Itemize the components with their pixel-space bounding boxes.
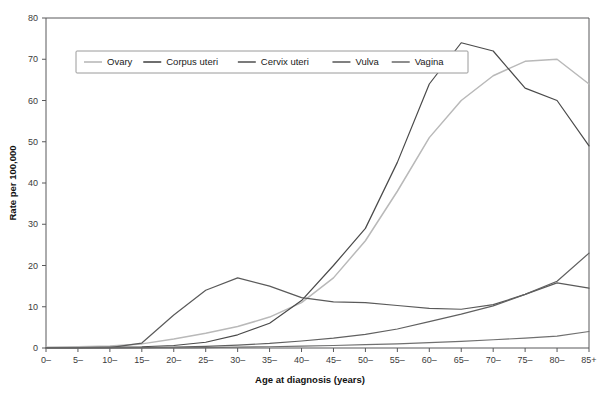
y-tick-label: 70 <box>28 54 38 64</box>
x-tick-label: 70– <box>486 355 501 365</box>
x-tick-label: 5– <box>73 355 83 365</box>
x-tick-label: 20– <box>166 355 181 365</box>
x-tick-label: 65– <box>454 355 469 365</box>
x-tick-label: 50– <box>358 355 373 365</box>
y-tick-label: 40 <box>28 178 38 188</box>
x-tick-label: 55– <box>390 355 405 365</box>
legend-label-cervix-uteri: Cervix uteri <box>261 56 309 67</box>
x-tick-label: 85+ <box>581 355 596 365</box>
y-tick-label: 10 <box>28 302 38 312</box>
y-tick-label: 30 <box>28 219 38 229</box>
x-tick-label: 80– <box>550 355 565 365</box>
x-tick-label: 35– <box>262 355 277 365</box>
line-chart: 01020304050607080 0–5–10–15–20–25–30–35–… <box>0 0 601 394</box>
x-tick-label: 10– <box>102 355 117 365</box>
series-line-cervix-uteri <box>46 278 589 348</box>
legend-label-ovary: Ovary <box>107 56 133 67</box>
y-tick-label: 80 <box>28 13 38 23</box>
x-tick-label: 15– <box>134 355 149 365</box>
legend-label-vagina: Vagina <box>415 56 445 67</box>
legend-label-corpus-uteri: Corpus uteri <box>166 56 218 67</box>
x-tick-label: 0– <box>41 355 51 365</box>
x-tick-label: 45– <box>326 355 341 365</box>
y-tick-label: 20 <box>28 261 38 271</box>
y-axis-title: Rate per 100,000 <box>7 146 18 221</box>
x-tick-label: 75– <box>518 355 533 365</box>
y-tick-label: 60 <box>28 96 38 106</box>
x-tick-label: 25– <box>198 355 213 365</box>
x-tick-label: 30– <box>230 355 245 365</box>
chart-container: 01020304050607080 0–5–10–15–20–25–30–35–… <box>0 0 601 394</box>
y-axis: 01020304050607080 <box>28 13 46 353</box>
y-tick-label: 0 <box>33 343 38 353</box>
x-tick-label: 40– <box>294 355 309 365</box>
legend-label-vulva: Vulva <box>355 56 379 67</box>
y-tick-label: 50 <box>28 137 38 147</box>
series-line-ovary <box>46 59 589 347</box>
series-line-vulva <box>46 253 589 348</box>
chart-legend: OvaryCorpus uteriCervix uteriVulvaVagina <box>76 51 468 73</box>
x-axis-title: Age at diagnosis (years) <box>255 374 365 385</box>
series-lines <box>46 43 589 348</box>
x-tick-label: 60– <box>422 355 437 365</box>
series-line-corpus-uteri <box>46 43 589 348</box>
